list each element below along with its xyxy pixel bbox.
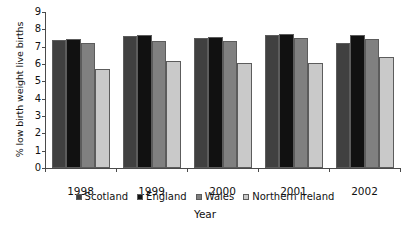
legend-swatch-icon: [196, 194, 202, 200]
y-axis-line: [45, 12, 46, 169]
legend-swatch-icon: [76, 194, 82, 200]
y-tick-label: 2: [23, 128, 41, 138]
legend-item-england: England: [137, 191, 187, 202]
y-tick-mark: [42, 99, 45, 100]
bar-wales-2000: [223, 41, 238, 168]
x-tick-mark: [187, 168, 188, 172]
plot-area: 0123456789 19981999200020012002: [45, 12, 400, 169]
chart-legend: ScotlandEnglandWalesNorthern Ireland: [0, 191, 410, 202]
legend-item-scotland: Scotland: [76, 191, 128, 202]
y-tick-label: 9: [23, 7, 41, 17]
bar-wales-1999: [152, 41, 167, 168]
bar-group: [123, 12, 181, 168]
bar-northern-ireland-2001: [308, 63, 323, 168]
y-tick-mark: [42, 64, 45, 65]
bar-england-1999: [137, 35, 152, 168]
bar-northern-ireland-1998: [95, 69, 110, 168]
bar-group: [194, 12, 252, 168]
y-tick-mark: [42, 29, 45, 30]
y-tick-mark: [42, 47, 45, 48]
bar-england-1998: [66, 39, 81, 168]
x-tick-mark: [258, 168, 259, 172]
bar-northern-ireland-1999: [166, 61, 181, 168]
x-tick-mark: [400, 168, 401, 172]
bar-wales-2001: [294, 38, 309, 168]
y-tick-label: 8: [23, 24, 41, 34]
x-tick-mark: [116, 168, 117, 172]
legend-label: Scotland: [85, 191, 128, 202]
y-tick-label: 0: [23, 163, 41, 173]
x-axis-title: Year: [0, 208, 410, 220]
x-tick-mark: [329, 168, 330, 172]
legend-label: England: [146, 191, 187, 202]
bar-group: [336, 12, 394, 168]
bar-scotland-2000: [194, 38, 209, 168]
bar-scotland-2001: [265, 35, 280, 168]
bar-wales-2002: [365, 39, 380, 168]
y-tick-label: 6: [23, 59, 41, 69]
y-tick-mark: [42, 81, 45, 82]
y-tick-label: 3: [23, 111, 41, 121]
y-tick-mark: [42, 12, 45, 13]
x-axis-line: [45, 168, 400, 169]
bar-scotland-2002: [336, 43, 351, 168]
y-tick-mark: [42, 151, 45, 152]
bar-england-2001: [279, 34, 294, 168]
bar-northern-ireland-2000: [237, 63, 252, 168]
y-tick-label: 4: [23, 94, 41, 104]
bar-england-2000: [208, 37, 223, 168]
y-tick-label: 5: [23, 76, 41, 86]
legend-item-northern-ireland: Northern Ireland: [243, 191, 334, 202]
legend-swatch-icon: [137, 194, 143, 200]
x-tick-mark: [45, 168, 46, 172]
y-tick-mark: [42, 116, 45, 117]
legend-item-wales: Wales: [196, 191, 235, 202]
legend-label: Northern Ireland: [252, 191, 334, 202]
y-tick-label: 7: [23, 42, 41, 52]
bar-northern-ireland-2002: [379, 57, 394, 168]
y-tick-mark: [42, 133, 45, 134]
bar-group: [265, 12, 323, 168]
bar-wales-1998: [81, 43, 96, 168]
bar-england-2002: [350, 35, 365, 168]
legend-label: Wales: [205, 191, 235, 202]
bar-group: [52, 12, 110, 168]
bar-scotland-1999: [123, 36, 138, 168]
bar-chart: % low birth weight live births 012345678…: [0, 0, 410, 232]
legend-swatch-icon: [243, 194, 249, 200]
y-tick-label: 1: [23, 146, 41, 156]
bar-scotland-1998: [52, 40, 67, 168]
